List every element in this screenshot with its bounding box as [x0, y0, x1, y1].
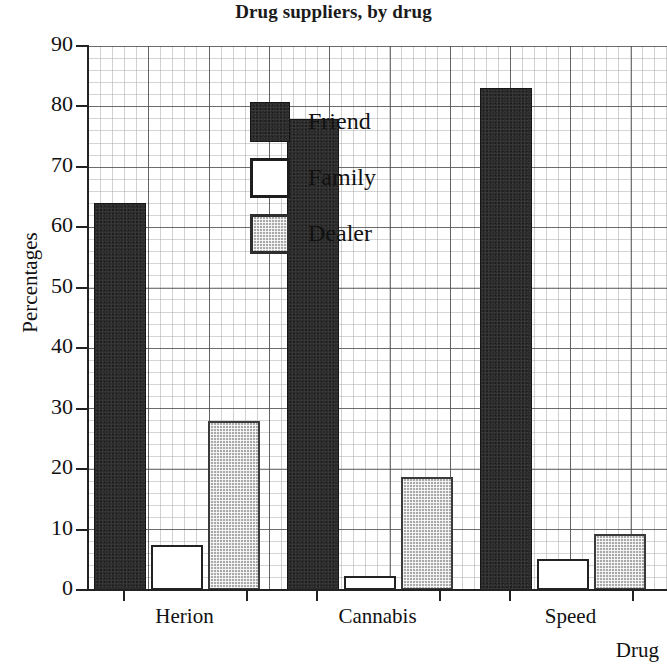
- minor-gridlines: [88, 46, 667, 590]
- major-gridlines: [88, 46, 667, 590]
- bar-herion-family: [151, 545, 203, 590]
- x-axis-tick: [246, 590, 248, 601]
- legend-label-family: Family: [308, 158, 376, 196]
- y-axis-tick: [76, 226, 88, 228]
- bar-speed-friend: [480, 88, 532, 590]
- legend-label-dealer: Dealer: [308, 214, 372, 252]
- y-axis-tick: [76, 347, 88, 349]
- bar-herion-dealer: [208, 421, 260, 590]
- y-axis-tick: [76, 468, 88, 470]
- x-axis-tick: [123, 590, 125, 601]
- y-axis-tick: [76, 166, 88, 168]
- x-axis-category-label: Speed: [474, 604, 667, 629]
- y-axis-tick-label: 10: [1, 515, 73, 541]
- y-axis-tick-label: 0: [1, 575, 73, 601]
- y-axis-tick-label: 90: [1, 31, 73, 57]
- y-axis-line: [87, 45, 89, 591]
- bar-speed-dealer: [594, 534, 646, 590]
- legend-swatch-dealer: [250, 214, 290, 254]
- x-axis-category-label: Herion: [88, 604, 281, 629]
- bar-cannabis-family: [344, 576, 396, 590]
- x-axis-title: Drug: [616, 638, 659, 663]
- y-axis-tick-label: 80: [1, 91, 73, 117]
- y-axis-title: Percentages: [18, 173, 43, 393]
- y-axis-tick: [76, 529, 88, 531]
- y-axis-tick: [76, 45, 88, 47]
- bar-herion-friend: [94, 203, 146, 590]
- plot-area: FriendFamilyDealer: [88, 46, 667, 590]
- y-axis-tick: [76, 408, 88, 410]
- y-axis-tick: [76, 105, 88, 107]
- x-axis-tick: [439, 590, 441, 601]
- legend-label-friend: Friend: [308, 102, 371, 140]
- bar-speed-family: [537, 559, 589, 590]
- y-axis-tick: [76, 589, 88, 591]
- chart-title: Drug suppliers, by drug: [0, 1, 667, 23]
- x-axis-tick: [316, 590, 318, 601]
- bar-chart: Drug suppliers, by drug FriendFamilyDeal…: [0, 0, 667, 670]
- y-axis-tick: [76, 287, 88, 289]
- legend-swatch-family: [250, 158, 290, 198]
- y-axis-tick-label: 30: [1, 394, 73, 420]
- y-axis-tick-label: 20: [1, 454, 73, 480]
- x-axis-tick: [632, 590, 634, 601]
- x-axis-line: [87, 589, 667, 591]
- x-axis-tick: [509, 590, 511, 601]
- legend-swatch-friend: [250, 102, 290, 142]
- x-axis-category-label: Cannabis: [281, 604, 474, 629]
- bar-cannabis-dealer: [401, 477, 453, 590]
